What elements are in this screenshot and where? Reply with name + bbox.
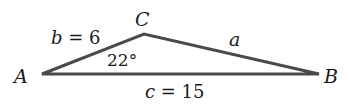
side-b-label: b = 6	[51, 27, 101, 48]
triangle-svg: A C B b = 6 a c = 15 22°	[0, 0, 349, 109]
vertex-a-label: A	[12, 65, 28, 87]
triangle-diagram: A C B b = 6 a c = 15 22°	[0, 0, 349, 109]
vertex-c-label: C	[135, 8, 150, 30]
side-a-label: a	[229, 28, 240, 50]
vertex-b-label: B	[323, 65, 338, 87]
side-c-label: c = 15	[145, 81, 205, 102]
angle-a-label: 22°	[107, 50, 137, 70]
